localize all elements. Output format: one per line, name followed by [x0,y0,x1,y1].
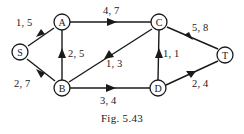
edge-label-C-B: 1, 3 [106,58,123,69]
edge-label-T-C: 5, 8 [192,22,209,33]
edge-label-B-D: 3, 4 [100,95,117,106]
node-label-T: T [222,50,228,61]
node-label-D: D [154,83,161,94]
node-label-B: B [59,83,66,94]
edge-label-D-T: 2, 4 [192,78,209,89]
arrowhead-A-C [107,18,117,26]
node-label-S: S [17,47,23,58]
node-label-A: A [58,17,66,28]
figure-caption: Fig. 5.43 [0,112,244,124]
edge-label-B-A: 2, 5 [68,48,85,59]
arrowhead-T-C [184,32,193,40]
edge-label-A-C: 4, 7 [103,5,120,16]
edge-label-S-A: 1, 5 [16,17,33,28]
figure-container: S A B C D T 1, 5 2, 7 2, 5 4, 7 1, 3 3, … [0,0,244,134]
edge-label-D-C: 1, 1 [163,48,180,59]
arrowhead-B-A [58,48,66,58]
arrowhead-B-D [106,84,116,92]
edge-label-S-B: 2, 7 [14,78,31,89]
edge-layer [27,22,218,88]
arrowhead-D-C [155,48,163,58]
node-label-C: C [156,17,163,28]
